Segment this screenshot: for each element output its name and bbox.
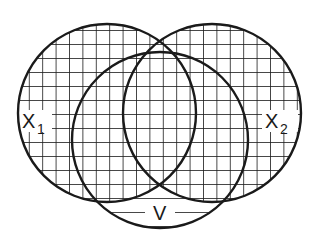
- v-label: V: [153, 202, 167, 224]
- x2-label: X: [265, 110, 278, 132]
- x1-label-subscript: 1: [37, 121, 45, 137]
- venn-diagram: X 1 X 2 V: [0, 0, 318, 232]
- x2-label-subscript: 2: [280, 121, 288, 137]
- x1-label: X: [22, 110, 35, 132]
